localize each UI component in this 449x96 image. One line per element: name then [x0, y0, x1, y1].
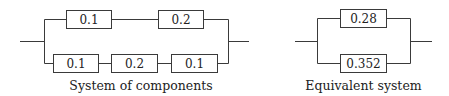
component-box: 0.1 [172, 55, 218, 73]
component-value: 0.1 [185, 57, 204, 71]
component-box: 0.1 [67, 11, 112, 29]
component-box: 0.352 [341, 55, 387, 73]
component-value: 0.352 [346, 57, 380, 71]
component-value: 0.1 [79, 13, 98, 27]
diagram-caption: Equivalent system [305, 78, 421, 93]
component-value: 0.28 [350, 12, 377, 26]
component-value: 0.1 [66, 57, 85, 71]
component-box: 0.2 [159, 11, 204, 29]
diagram-caption: System of components [69, 78, 212, 93]
component-box: 0.1 [54, 55, 99, 73]
system-of-components-diagram: 0.1 0.2 0.1 0.2 0.1 System of components [20, 11, 249, 93]
equivalent-system-diagram: 0.28 0.352 Equivalent system [295, 10, 432, 93]
component-box: 0.2 [112, 55, 158, 73]
component-value: 0.2 [171, 13, 190, 27]
component-box: 0.28 [341, 10, 387, 28]
reliability-diagrams: 0.1 0.2 0.1 0.2 0.1 System of components [0, 0, 449, 96]
component-value: 0.2 [125, 57, 144, 71]
